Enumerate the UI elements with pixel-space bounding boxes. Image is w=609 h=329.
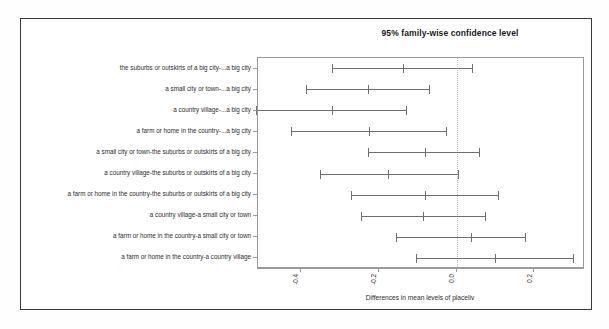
x-axis-tick [456, 268, 457, 272]
interval-center-marker [425, 148, 426, 157]
interval-cap-upper [525, 233, 526, 242]
y-axis-tick [253, 131, 257, 132]
confidence-interval-row [258, 169, 585, 180]
screenshot-root: 95% family-wise confidence level Differe… [0, 0, 609, 329]
y-axis-tick [253, 194, 257, 195]
interval-center-marker [425, 191, 426, 200]
confidence-interval-row [258, 190, 585, 201]
confidence-interval-row [258, 253, 585, 264]
y-axis-tick [253, 236, 257, 237]
interval-cap-upper [472, 64, 473, 73]
y-axis-label: a farm or home in the country-...a big c… [137, 128, 251, 134]
interval-center-marker [423, 212, 424, 221]
confidence-interval-row [258, 147, 585, 158]
x-axis-tick [378, 268, 379, 272]
interval-cap-lower [320, 170, 321, 179]
x-axis-title: Differences in mean levels of placeliv [300, 294, 540, 301]
y-axis-tick [253, 89, 257, 90]
y-axis-label: a country village-...a big city [173, 107, 251, 113]
interval-bar [368, 152, 479, 153]
y-axis-tick [253, 152, 257, 153]
interval-cap-upper [429, 85, 430, 94]
confidence-interval-row [258, 84, 585, 95]
y-axis-label: a farm or home in the country-a country … [121, 254, 251, 260]
interval-center-marker [369, 127, 370, 136]
confidence-interval-row [258, 232, 585, 243]
interval-center-marker [495, 254, 496, 263]
chart-title: 95% family-wise confidence level [330, 28, 570, 38]
y-axis-tick [253, 215, 257, 216]
interval-cap-lower [396, 233, 397, 242]
interval-cap-upper [446, 127, 447, 136]
interval-cap-lower [361, 212, 362, 221]
confidence-interval-row [258, 63, 585, 74]
x-axis-line [257, 268, 584, 269]
x-axis-tick-label: 0.0 [449, 274, 455, 283]
y-axis-label: a small city or town-...a big city [165, 85, 251, 91]
x-axis-tick [300, 268, 301, 272]
interval-cap-lower [416, 254, 417, 263]
interval-center-marker [403, 64, 404, 73]
y-axis-label: the suburbs or outskirts of a big city-.… [120, 64, 251, 70]
x-axis-tick-label: -0.4 [293, 274, 299, 285]
interval-center-marker [471, 233, 472, 242]
interval-cap-lower [368, 148, 369, 157]
interval-cap-upper [485, 212, 486, 221]
y-axis-tick [253, 173, 257, 174]
confidence-interval-row [258, 211, 585, 222]
interval-cap-upper [498, 191, 499, 200]
confidence-interval-row [258, 105, 585, 116]
interval-cap-lower [351, 191, 352, 200]
y-axis-tick [253, 110, 257, 111]
interval-center-marker [368, 85, 369, 94]
y-axis-tick [253, 257, 257, 258]
y-axis-label: a country village-the suburbs or outskir… [104, 170, 251, 176]
interval-center-marker [388, 170, 389, 179]
y-axis-label: a farm or home in the country-the suburb… [68, 191, 251, 197]
confidence-interval-row [258, 126, 585, 137]
x-axis-tick [533, 268, 534, 272]
y-axis-label: a small city or town-the suburbs or outs… [96, 149, 251, 155]
interval-cap-lower [306, 85, 307, 94]
y-axis-label: a country village-a small city or town [150, 212, 251, 218]
plot-area [257, 57, 584, 268]
y-axis-label: a farm or home in the country-a small ci… [113, 233, 251, 239]
interval-cap-lower [291, 127, 292, 136]
y-axis-tick [253, 68, 257, 69]
interval-bar [396, 237, 525, 238]
x-axis-tick-label: -0.2 [371, 274, 377, 285]
interval-cap-upper [406, 106, 407, 115]
interval-cap-upper [573, 254, 574, 263]
interval-center-marker [332, 106, 333, 115]
interval-cap-upper [479, 148, 480, 157]
interval-cap-lower [332, 64, 333, 73]
x-axis-tick-label: 0.2 [527, 274, 533, 283]
interval-cap-lower [256, 106, 257, 115]
interval-cap-upper [458, 170, 459, 179]
